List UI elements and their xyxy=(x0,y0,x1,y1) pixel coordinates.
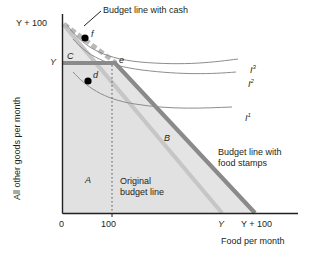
point-d-dot xyxy=(84,77,91,84)
y-tick-label-y-plus-100: Y + 100 xyxy=(16,18,47,29)
curve-exp-I2: 2 xyxy=(251,78,254,84)
x-tick-label-y-plus-100: Y + 100 xyxy=(241,219,272,230)
figure-canvas: All other goods per month Y + 100 Y 0 10… xyxy=(0,0,311,264)
cash-label-leader-line xyxy=(84,11,101,26)
region-label-a: A xyxy=(85,175,91,186)
curve-exp-I1: 1 xyxy=(248,112,251,118)
indifference-curve-label-I2: I2 xyxy=(238,67,254,100)
point-label-c: C xyxy=(67,51,74,62)
budget-line-with-food-stamps-label-line1: Budget line with xyxy=(218,147,282,158)
budget-line-with-food-stamps-label-line2: food stamps xyxy=(218,158,267,169)
original-budget-line-label-line2: budget line xyxy=(120,187,164,198)
x-tick-label-0: 0 xyxy=(59,219,64,230)
y-tick-label-y: Y xyxy=(50,57,56,68)
indifference-curve-label-I1: I1 xyxy=(235,101,251,134)
point-label-f: f xyxy=(91,29,94,40)
budget-line-with-cash-label: Budget line with cash xyxy=(103,5,188,16)
x-tick-label-y: Y xyxy=(218,219,224,230)
x-tick-label-100: 100 xyxy=(101,219,116,230)
point-label-d: d xyxy=(93,70,98,81)
point-label-e: e xyxy=(119,55,124,66)
y-axis-title: All other goods per month xyxy=(12,97,23,200)
region-label-b: B xyxy=(164,133,170,144)
point-f-dot xyxy=(81,34,88,41)
x-axis-title: Food per month xyxy=(221,236,285,247)
original-budget-line-label-line1: Original xyxy=(120,176,151,187)
